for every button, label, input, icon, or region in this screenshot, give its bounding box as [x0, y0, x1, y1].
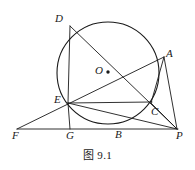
segment-E-P: [68, 103, 177, 129]
point-label-b: B: [115, 129, 122, 140]
segment-D-E: [68, 26, 70, 103]
point-label-o: O: [95, 65, 103, 76]
figure-caption: 图 9.1: [0, 149, 195, 162]
center-point-dot: [106, 70, 109, 73]
point-label-p: P: [176, 130, 183, 141]
segment-F-A: [17, 57, 164, 129]
point-label-c: C: [151, 106, 158, 117]
point-label-d: D: [55, 13, 63, 24]
segment-E-C: [68, 102, 152, 103]
point-label-f: F: [12, 130, 19, 141]
geometry-canvas: [0, 0, 195, 170]
point-label-a: A: [166, 48, 173, 59]
point-label-e: E: [54, 94, 61, 105]
geometry-figure: DAOECBFGP 图 9.1: [0, 0, 195, 170]
point-label-g: G: [66, 130, 74, 141]
